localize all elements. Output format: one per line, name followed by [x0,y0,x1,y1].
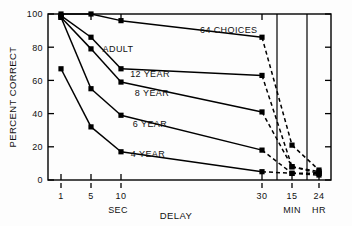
y-tick-label: 80 [32,43,43,53]
data-point-marker [118,66,123,71]
x-tick-label: 5 [88,191,93,201]
x-tick-label: 10 [116,191,127,201]
x-tick-label: 1 [58,191,63,201]
chart-figure: 020406080100 1510301524 ADULT12 YEAR8 YE… [0,0,352,226]
data-point-marker [259,35,264,40]
data-point-marker [58,66,63,71]
y-tick-label: 60 [32,76,43,86]
delay-vs-percent-correct-chart: 020406080100 1510301524 ADULT12 YEAR8 YE… [0,0,352,226]
data-point-marker [289,171,294,176]
data-point-marker [58,15,63,20]
x-unit-label: SEC [108,205,128,215]
data-point-marker [88,124,93,129]
data-point-marker [88,11,93,16]
x-unit-label: HR [312,205,326,215]
data-point-marker [316,172,321,177]
data-point-marker [289,164,294,169]
data-point-marker [118,18,123,23]
y-tick-label: 40 [32,109,43,119]
data-point-marker [259,109,264,114]
data-point-marker [88,86,93,91]
series-label: 4 YEAR [131,149,165,159]
series-label: ADULT [103,44,134,54]
x-tick-label: 24 [314,191,325,201]
data-point-marker [118,79,123,84]
series-label: 8 YEAR [135,88,169,98]
series-label: 6 YEAR [133,119,167,129]
data-point-marker [259,73,264,78]
x-tick-label: 15 [287,191,298,201]
y-tick-label: 20 [32,142,43,152]
y-axis-title: PERCENT CORRECT [7,47,18,148]
x-tick-label: 30 [257,191,268,201]
data-point-marker [289,143,294,148]
x-unit-label: MIN [283,205,301,215]
data-point-marker [259,148,264,153]
data-point-marker [259,169,264,174]
data-point-marker [88,35,93,40]
data-point-marker [88,46,93,51]
chart-annotation: 64 CHOICES [200,25,258,35]
y-tick-label: 100 [27,9,43,19]
y-tick-label: 0 [38,175,43,185]
x-axis-title: DELAY [160,210,193,221]
data-point-marker [118,113,123,118]
series-label: 12 YEAR [130,69,170,79]
data-point-marker [118,149,123,154]
